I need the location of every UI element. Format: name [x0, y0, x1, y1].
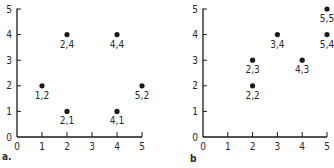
y-tick-label: 2: [192, 80, 198, 91]
x-tick-label: 4: [114, 141, 120, 152]
point-label: 5,5: [320, 13, 334, 24]
y-tick-label: 0: [6, 132, 12, 143]
point-label: 2,4: [60, 39, 75, 50]
data-points: 2,32,23,44,35,55,4: [245, 6, 334, 100]
point-label: 2,3: [245, 64, 259, 75]
x-tick-label: 2: [250, 141, 256, 152]
y-tick-label: 2: [6, 80, 12, 91]
y-tick-label: 1: [6, 106, 12, 117]
x-tick-label: 4: [299, 141, 305, 152]
data-point: [114, 32, 119, 37]
data-point: [64, 109, 69, 114]
point-label: 5,4: [320, 39, 334, 50]
data-point: [324, 6, 329, 11]
data-point: [64, 32, 69, 37]
x-tick-label: 2: [64, 141, 70, 152]
y-tick-label: 1: [192, 106, 198, 117]
y-tick-label: 4: [192, 29, 198, 40]
data-point: [324, 32, 329, 37]
x-tick-label: 3: [275, 141, 281, 152]
y-tick-label: 5: [192, 4, 198, 15]
x-tick-label: 0: [14, 141, 20, 152]
y-tick-label: 5: [6, 4, 12, 15]
scatter-panel-b: 0123450123452,32,23,44,35,55,4b: [167, 0, 334, 168]
x-tick-label: 1: [225, 141, 231, 152]
data-point: [114, 109, 119, 114]
point-label: 4,1: [110, 115, 124, 126]
y-tick-label: 3: [192, 55, 198, 66]
point-label: 1,2: [35, 90, 49, 101]
scatter-plot-a: 0123450123451,22,42,14,44,15,2a.: [0, 0, 167, 168]
data-point: [275, 32, 280, 37]
data-point: [139, 83, 144, 88]
y-tick-label: 3: [6, 55, 12, 66]
point-label: 2,1: [60, 115, 74, 126]
data-point: [250, 58, 255, 63]
data-point: [250, 83, 255, 88]
point-label: 4,3: [295, 64, 309, 75]
x-tick-label: 5: [324, 141, 330, 152]
point-label: 4,4: [110, 39, 125, 50]
data-points: 1,22,42,14,44,15,2: [35, 32, 149, 126]
x-tick-label: 5: [139, 141, 145, 152]
panel-label: b: [190, 153, 197, 164]
point-label: 5,2: [135, 90, 149, 101]
scatter-plot-b: 0123450123452,32,23,44,35,55,4b: [167, 0, 334, 168]
x-tick-label: 0: [200, 141, 206, 152]
y-tick-label: 4: [6, 29, 12, 40]
point-label: 3,4: [270, 39, 285, 50]
y-tick-label: 0: [192, 132, 198, 143]
axes: 012345012345: [192, 4, 330, 153]
data-point: [300, 58, 305, 63]
point-label: 2,2: [245, 90, 259, 101]
axes: 012345012345: [6, 4, 145, 153]
data-point: [39, 83, 44, 88]
scatter-panel-a: 0123450123451,22,42,14,44,15,2a.: [0, 0, 167, 168]
x-tick-label: 1: [39, 141, 45, 152]
x-tick-label: 3: [89, 141, 95, 152]
panel-label: a.: [2, 151, 12, 162]
